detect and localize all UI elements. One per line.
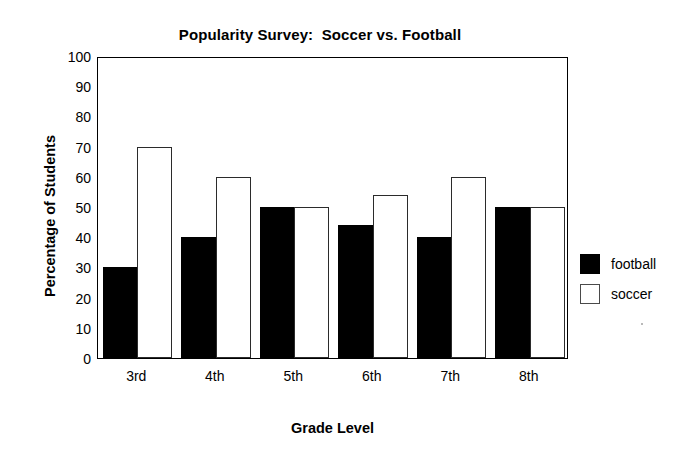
y-axis-tick-80: 80	[51, 109, 91, 125]
bars-layer	[98, 58, 567, 358]
bar-7th-soccer	[451, 177, 486, 358]
bar-4th-football	[181, 237, 216, 358]
bar-6th-football	[338, 225, 373, 358]
y-axis-tick-40: 40	[51, 230, 91, 246]
bar-5th-soccer	[294, 207, 329, 358]
y-axis-tick-50: 50	[51, 200, 91, 216]
bar-8th-football	[495, 207, 530, 358]
x-axis-tick-3rd: 3rd	[126, 368, 146, 384]
x-axis-title: Grade Level	[97, 420, 568, 436]
legend-item-football: football	[580, 249, 690, 279]
legend-label-football: football	[611, 256, 656, 272]
y-axis-tick-10: 10	[51, 321, 91, 337]
y-axis-tick-labels: 0102030405060708090100	[47, 57, 91, 359]
y-axis-tick-100: 100	[51, 49, 91, 65]
y-axis-tick-70: 70	[51, 140, 91, 156]
legend-item-soccer: soccer	[580, 279, 690, 309]
y-axis-tick-30: 30	[51, 260, 91, 276]
bar-3rd-football	[103, 267, 138, 358]
bar-8th-soccer	[530, 207, 565, 358]
bar-4th-soccer	[216, 177, 251, 358]
legend-swatch-icon-soccer	[580, 284, 600, 304]
x-axis-tick-5th: 5th	[284, 368, 303, 384]
chart-title: Popularity Survey: Soccer vs. Football	[0, 26, 640, 43]
x-axis-tick-8th: 8th	[519, 368, 538, 384]
y-axis-tick-0: 0	[51, 351, 91, 367]
x-axis-tick-labels: 3rd4th5th6th7th8th	[97, 368, 568, 392]
scan-speck	[641, 323, 643, 325]
bar-3rd-soccer	[137, 147, 172, 358]
legend-swatch-icon-football	[580, 254, 600, 274]
x-axis-tick-7th: 7th	[441, 368, 460, 384]
plot-area	[97, 57, 568, 359]
bar-6th-soccer	[373, 195, 408, 358]
y-axis-tick-20: 20	[51, 291, 91, 307]
legend-label-soccer: soccer	[611, 286, 652, 302]
bar-5th-football	[260, 207, 295, 358]
y-axis-tick-60: 60	[51, 170, 91, 186]
x-axis-tick-4th: 4th	[205, 368, 224, 384]
bar-7th-football	[417, 237, 452, 358]
bar-chart: Popularity Survey: Soccer vs. Football P…	[0, 0, 696, 470]
legend: footballsoccer	[580, 249, 690, 309]
x-axis-tick-6th: 6th	[362, 368, 381, 384]
y-axis-tick-90: 90	[51, 79, 91, 95]
